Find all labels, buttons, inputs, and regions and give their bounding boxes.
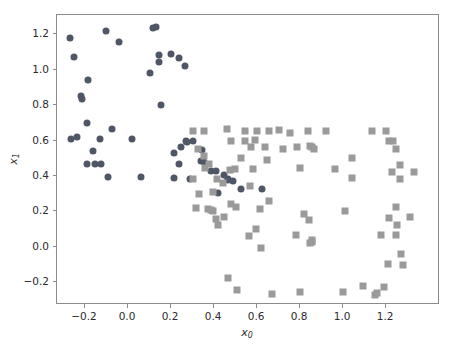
- data-point-class-0: [129, 135, 136, 142]
- data-point-class-0: [97, 135, 104, 142]
- x-tick-mark: [256, 304, 257, 308]
- y-axis-label: x1: [7, 153, 21, 165]
- data-point-class-1: [207, 206, 214, 213]
- data-point-class-1: [265, 127, 272, 134]
- data-point-class-1: [192, 204, 199, 211]
- data-point-class-0: [104, 173, 111, 180]
- data-point-class-1: [322, 127, 329, 134]
- x-tick-mark: [170, 304, 171, 308]
- y-tick-mark: [53, 210, 57, 211]
- y-tick-label: 0.4: [32, 169, 49, 181]
- data-point-class-0: [152, 24, 159, 31]
- x-axis-label: x0: [241, 326, 253, 340]
- data-point-class-1: [215, 221, 222, 228]
- y-tick-mark: [53, 33, 57, 34]
- data-point-class-0: [103, 27, 110, 34]
- y-tick-label: 0.6: [32, 134, 49, 146]
- data-point-class-1: [386, 215, 393, 222]
- data-point-class-0: [230, 178, 237, 185]
- data-point-class-1: [237, 155, 244, 162]
- y-tick-mark: [53, 104, 57, 105]
- y-tick-label: 0.0: [32, 240, 49, 252]
- data-point-class-1: [247, 143, 254, 150]
- x-tick-mark: [213, 304, 214, 308]
- data-point-class-0: [171, 174, 178, 181]
- data-point-class-1: [228, 201, 235, 208]
- data-point-class-1: [213, 216, 220, 223]
- data-point-class-0: [137, 173, 144, 180]
- data-point-class-1: [305, 217, 312, 224]
- data-point-class-1: [279, 145, 286, 152]
- data-point-class-1: [311, 145, 318, 152]
- data-point-class-1: [377, 232, 384, 239]
- data-point-class-1: [397, 175, 404, 182]
- y-tick-label: 1.0: [32, 63, 49, 75]
- data-point-class-0: [175, 55, 182, 62]
- data-point-class-1: [202, 164, 209, 171]
- data-point-class-1: [204, 205, 211, 212]
- data-point-class-0: [177, 143, 184, 150]
- data-point-class-0: [71, 54, 78, 61]
- data-point-class-0: [201, 158, 208, 165]
- data-point-class-1: [219, 179, 226, 186]
- x-tick-label: 0.8: [291, 310, 308, 322]
- data-point-class-1: [372, 292, 379, 299]
- data-point-class-0: [156, 51, 163, 58]
- data-point-class-0: [89, 148, 96, 155]
- y-tick-mark: [53, 140, 57, 141]
- data-point-class-1: [242, 127, 249, 134]
- data-point-class-1: [383, 127, 390, 134]
- data-point-class-0: [98, 161, 105, 168]
- y-tick-label: 0.8: [32, 98, 49, 110]
- y-tick-mark: [53, 281, 57, 282]
- data-point-class-0: [182, 63, 189, 70]
- data-point-class-0: [78, 95, 85, 102]
- data-point-class-0: [225, 175, 232, 182]
- data-point-class-1: [369, 127, 376, 134]
- data-point-class-1: [293, 143, 300, 150]
- data-point-class-1: [189, 175, 196, 182]
- data-point-class-1: [386, 137, 393, 144]
- data-point-class-0: [199, 147, 206, 154]
- data-point-class-1: [189, 127, 196, 134]
- data-point-class-1: [228, 137, 235, 144]
- data-point-class-0: [84, 119, 91, 126]
- data-point-class-0: [175, 161, 182, 168]
- x-tick-label: 1.2: [377, 310, 394, 322]
- data-point-class-0: [220, 172, 227, 179]
- data-point-class-1: [249, 165, 256, 172]
- data-point-class-1: [388, 169, 395, 176]
- data-point-class-1: [292, 232, 299, 239]
- data-point-class-1: [210, 208, 217, 215]
- y-tick-label: 0.2: [32, 204, 49, 216]
- data-point-class-1: [227, 166, 234, 173]
- data-point-class-1: [246, 182, 253, 189]
- data-point-class-0: [207, 167, 214, 174]
- data-point-class-1: [253, 225, 260, 232]
- data-point-class-1: [381, 284, 388, 291]
- data-point-class-1: [258, 245, 265, 252]
- data-point-class-1: [398, 250, 405, 257]
- data-point-class-0: [77, 93, 84, 100]
- data-point-class-1: [340, 288, 347, 295]
- data-point-class-1: [411, 169, 418, 176]
- data-point-class-1: [397, 162, 404, 169]
- data-point-class-1: [393, 221, 400, 228]
- data-point-class-1: [331, 165, 338, 172]
- data-point-class-1: [233, 286, 240, 293]
- data-point-class-1: [205, 160, 212, 167]
- data-point-class-1: [389, 138, 396, 145]
- data-point-class-0: [225, 177, 232, 184]
- y-tick-label: 1.2: [32, 27, 49, 39]
- data-point-class-1: [348, 174, 355, 181]
- data-point-class-1: [308, 236, 315, 243]
- y-tick-mark: [53, 246, 57, 247]
- data-point-class-1: [245, 233, 252, 240]
- data-point-class-1: [275, 126, 282, 133]
- y-tick-mark: [53, 175, 57, 176]
- data-point-class-1: [392, 203, 399, 210]
- data-point-class-0: [146, 70, 153, 77]
- data-point-class-1: [201, 127, 208, 134]
- scatter-plot-figure: −0.20.00.20.40.60.81.01.2−0.20.00.20.40.…: [0, 0, 451, 349]
- data-point-class-0: [67, 135, 74, 142]
